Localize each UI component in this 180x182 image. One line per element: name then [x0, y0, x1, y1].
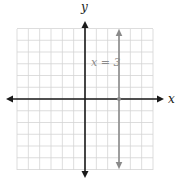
- y-axis-up-arrow-icon: [82, 21, 89, 28]
- equation-label-text: x = 3: [91, 56, 120, 69]
- line-down-arrow-icon: [116, 162, 123, 169]
- coordinate-plane: y x x = 3: [0, 0, 180, 182]
- x-axis-left-arrow-icon: [6, 96, 13, 103]
- axes: [6, 21, 164, 178]
- x-axis-right-arrow-icon: [157, 96, 164, 103]
- line-up-arrow-icon: [116, 29, 123, 36]
- equation-label: x = 3: [91, 56, 120, 69]
- x-intercept-point: [117, 97, 121, 101]
- y-axis-label: y: [80, 0, 88, 14]
- x-axis-label: x: [168, 92, 175, 106]
- y-axis-down-arrow-icon: [82, 171, 89, 178]
